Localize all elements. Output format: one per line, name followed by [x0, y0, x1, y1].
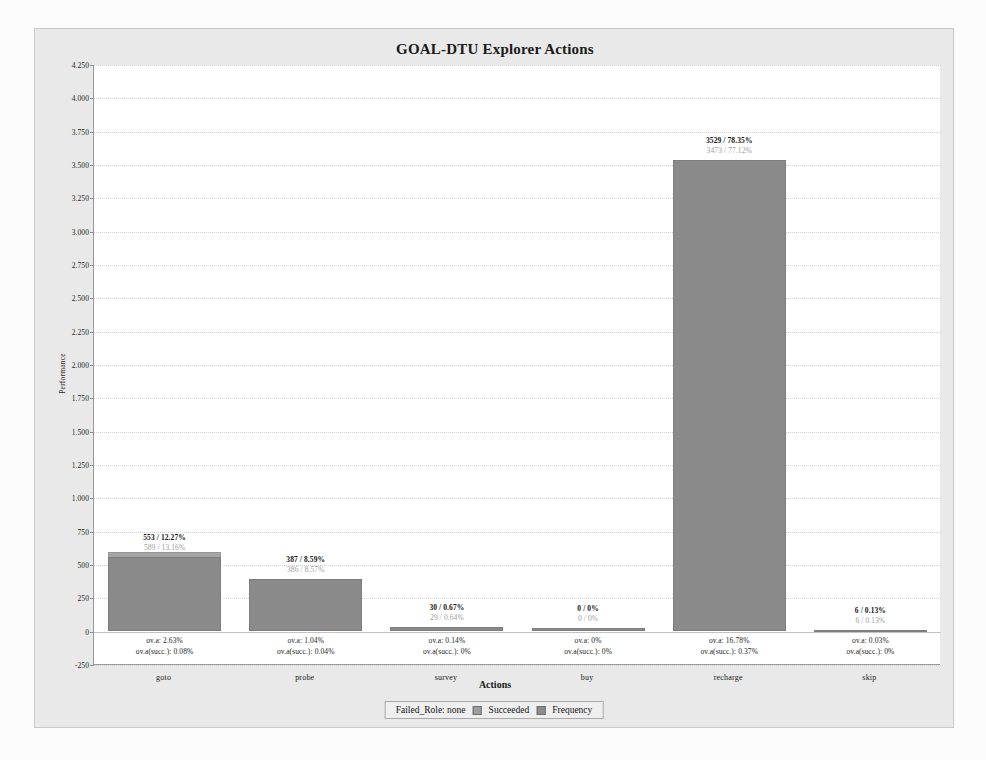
y-axis-tick-label: 3.750: [72, 127, 89, 136]
y-axis-tick-label: 1.000: [72, 494, 89, 503]
bar-group-survey[interactable]: 30 / 0.67%29 / 0.64%ov.a: 0.14%ov.a(succ…: [376, 64, 517, 664]
y-axis-tick-label: 3.000: [72, 227, 89, 236]
y-axis-tick-label: 4.250: [72, 61, 89, 70]
chart-legend[interactable]: Failed_Role: none Succeeded Frequency: [385, 701, 604, 719]
x-axis-tick-label-probe: probe: [234, 673, 375, 682]
y-axis-tick-label: 1.250: [72, 461, 89, 470]
legend-prefix-label: Failed_Role: none: [396, 705, 466, 715]
page-root: the agent continues to perform the same …: [0, 0, 986, 760]
bar-label-ov-succ-skip: ov.a(succ.): 0%: [765, 646, 976, 657]
legend-label-succeeded: Succeeded: [489, 705, 530, 715]
y-axis-tick-label: 1.750: [72, 394, 89, 403]
bar-overall-labels-skip: ov.a: 0.03%ov.a(succ.): 0%: [765, 635, 976, 657]
x-axis-tick-label-buy: buy: [517, 673, 658, 682]
x-axis-tick-label-skip: skip: [799, 673, 940, 682]
bar-frequency-survey[interactable]: [390, 627, 503, 631]
legend-swatch-succeeded-icon: [473, 706, 482, 715]
bar-frequency-recharge[interactable]: [673, 160, 786, 631]
y-axis-tick-label: -250: [75, 661, 89, 670]
chart-title: GOAL-DTU Explorer Actions: [35, 41, 955, 58]
bar-group-recharge[interactable]: 3529 / 78.35%3473 / 77.12%ov.a: 16.78%ov…: [659, 64, 800, 664]
y-axis-title: Performance: [58, 329, 67, 419]
y-axis-tick-label: 1.500: [72, 427, 89, 436]
x-axis-tick-label-survey: survey: [375, 673, 516, 682]
y-axis-tick-mark: [90, 665, 94, 666]
bar-group-probe[interactable]: 387 / 8.59%386 / 8.57%ov.a: 1.04%ov.a(su…: [235, 64, 376, 664]
bar-group-skip[interactable]: 6 / 0.13%6 / 0.13%ov.a: 0.03%ov.a(succ.)…: [800, 64, 941, 664]
y-axis-tick-label: 2.750: [72, 261, 89, 270]
y-axis-tick-label: 500: [77, 561, 89, 570]
bar-label-succeeded-skip: 6 / 0.13%: [770, 616, 971, 626]
bar-label-ov-skip: ov.a: 0.03%: [765, 635, 976, 646]
x-axis-tick-label-recharge: recharge: [658, 673, 799, 682]
y-axis-tick-label: 4.000: [72, 94, 89, 103]
bar-frequency-goto[interactable]: [108, 557, 221, 631]
gridline: [94, 665, 941, 666]
plot-area: 4.2504.0003.7503.5003.2503.0002.7502.500…: [93, 65, 940, 665]
x-axis-tick-label-goto: goto: [93, 673, 234, 682]
y-axis-tick-label: 250: [77, 594, 89, 603]
bar-frequency-probe[interactable]: [249, 579, 362, 631]
bar-value-labels-skip: 6 / 0.13%6 / 0.13%: [770, 606, 971, 626]
bar-frequency-buy[interactable]: [532, 628, 645, 631]
y-axis-tick-label: 2.250: [72, 327, 89, 336]
chart-panel: GOAL-DTU Explorer Actions Performance 4.…: [34, 28, 954, 728]
bar-frequency-skip[interactable]: [814, 630, 927, 632]
legend-swatch-frequency-icon: [536, 706, 545, 715]
y-axis-tick-label: 2.000: [72, 361, 89, 370]
bar-label-frequency-skip: 6 / 0.13%: [770, 606, 971, 616]
y-axis-tick-label: 2.500: [72, 294, 89, 303]
legend-label-frequency: Frequency: [552, 705, 592, 715]
y-axis-tick-label: 3.250: [72, 194, 89, 203]
y-axis-tick-label: 3.500: [72, 161, 89, 170]
